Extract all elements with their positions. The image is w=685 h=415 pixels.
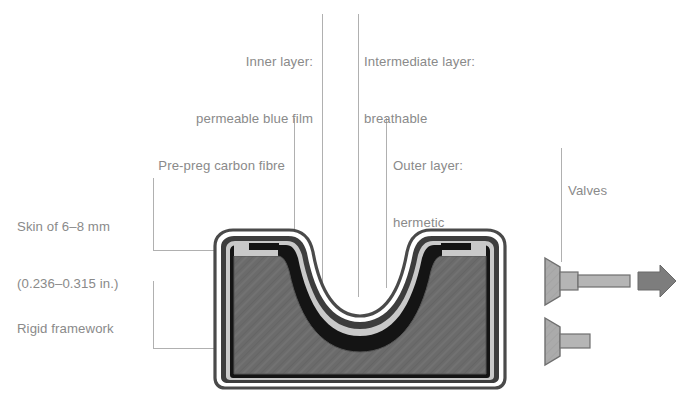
cutaway-diagram: Inner layer: permeable blue film Interme…	[0, 0, 685, 415]
valve-lower-stem	[560, 334, 590, 348]
label-intermediate-layer-line1: Intermediate layer:	[364, 52, 584, 71]
label-rigid-framework: Rigid framework	[17, 281, 152, 376]
valve-upper-stem-near	[560, 272, 578, 290]
label-skin-thickness-line1: Skin of 6–8 mm	[17, 217, 147, 236]
label-outer-layer-line1: Outer layer:	[393, 156, 573, 175]
label-pre-preg-line1: Pre-preg carbon fibre	[95, 156, 285, 175]
valve-lower-body	[545, 318, 560, 365]
flow-arrow-icon	[638, 265, 676, 297]
label-valves: Valves	[568, 143, 678, 238]
valve-upper-stem-far	[578, 275, 630, 287]
label-rigid-framework-line1: Rigid framework	[17, 319, 152, 338]
label-inner-layer-line1: Inner layer:	[113, 52, 313, 71]
label-outer-layer: Outer layer: hermetic	[393, 118, 573, 270]
valve-lower	[545, 318, 590, 365]
skin-strip-left-dark	[249, 243, 279, 250]
label-outer-layer-line2: hermetic	[393, 213, 573, 232]
label-valves-line1: Valves	[568, 181, 678, 200]
